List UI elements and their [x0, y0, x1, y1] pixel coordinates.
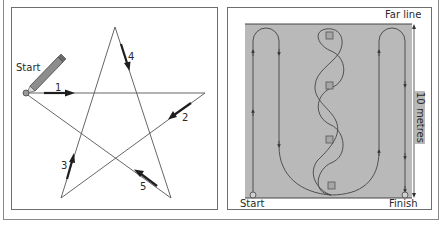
stroke-label-5: 5 [140, 182, 146, 192]
stroke-label-3: 3 [61, 161, 67, 171]
start-label: Start [16, 63, 40, 73]
stroke-label-4: 4 [128, 52, 134, 62]
far-line-label: Far line [385, 10, 421, 20]
arrow-3-icon [67, 153, 75, 179]
cone-icon [326, 32, 333, 39]
stroke-label-1: 1 [55, 83, 61, 93]
stroke-label-2: 2 [182, 113, 188, 123]
start-label: Start [240, 199, 264, 209]
distance-label: 10 metres [415, 91, 425, 144]
finish-label: Finish [389, 199, 417, 209]
cone-icon [328, 182, 335, 189]
cone-icon [326, 82, 333, 89]
star-diagram [12, 8, 219, 211]
course-diagram-panel: Far line 10 metres Start Finish [227, 7, 432, 210]
course-diagram [228, 8, 433, 211]
star-diagram-panel: Start 1 2 3 4 5 [11, 7, 218, 210]
start-point-icon [23, 90, 29, 96]
cone-icon [326, 136, 333, 143]
